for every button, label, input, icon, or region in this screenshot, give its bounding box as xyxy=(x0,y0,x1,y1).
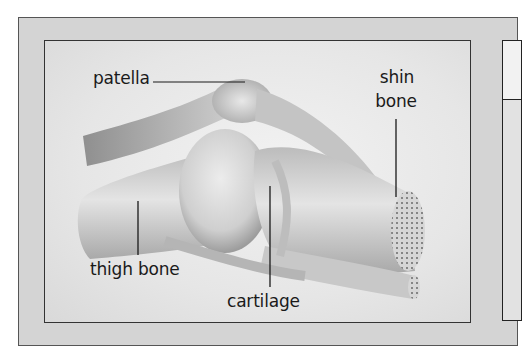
label-thigh-bone: thigh bone xyxy=(90,260,180,279)
label-shin-bone-line2: bone xyxy=(373,92,419,111)
adjacent-panel xyxy=(502,40,522,321)
label-cartilage: cartilage xyxy=(227,292,300,311)
label-shin-bone-line1: shin xyxy=(376,68,418,87)
shin-bone-cross-section xyxy=(391,191,425,271)
illustration-panel: patella shin bone thigh bone cartilage xyxy=(44,40,471,323)
adjacent-panel-header xyxy=(503,41,521,100)
label-patella: patella xyxy=(93,69,150,88)
